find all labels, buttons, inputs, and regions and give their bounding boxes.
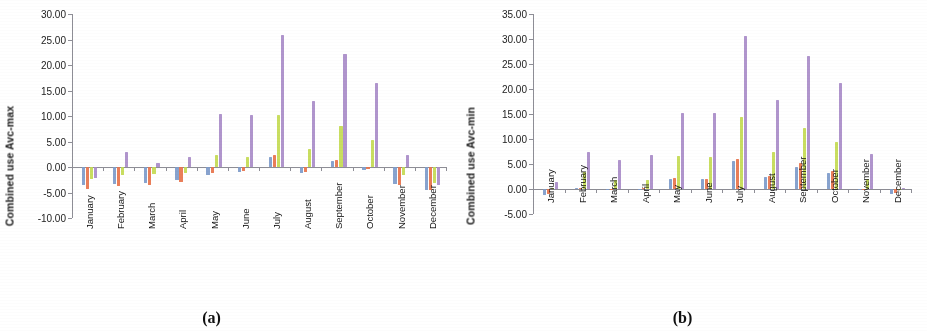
- figure-container: Combined use Avc-max 30.0025.0020.0015.0…: [0, 0, 927, 331]
- y-axis-tick-label: 30.00: [41, 9, 66, 20]
- bar-series-4: [125, 152, 128, 167]
- bar-series-3: [184, 167, 187, 173]
- plot-area-a: 30.0025.0020.0015.0010.005.000.00-5.00-1…: [72, 14, 446, 218]
- y-axis-tick: [68, 116, 72, 117]
- y-axis-tick-label: 25.00: [41, 34, 66, 45]
- bar-series-3: [371, 140, 374, 167]
- chart-panel-a: Combined use Avc-max 30.0025.0020.0015.0…: [0, 0, 463, 331]
- bar-group: [103, 14, 134, 218]
- y-axis-tick-label: 15.00: [41, 85, 66, 96]
- y-axis-tick: [529, 214, 533, 215]
- bar-series-1: [269, 157, 272, 167]
- bar-series-3: [152, 167, 155, 174]
- x-axis-label: April: [177, 210, 188, 229]
- y-axis-tick: [529, 14, 533, 15]
- bar-series-1: [238, 167, 241, 172]
- y-axis-tick: [529, 39, 533, 40]
- y-axis-tick: [68, 14, 72, 15]
- x-axis-label: June: [240, 208, 251, 229]
- x-axis-label: February: [115, 191, 126, 229]
- bar-group: [166, 14, 197, 218]
- bar-series-4: [406, 155, 409, 167]
- bar-series-2: [736, 159, 739, 189]
- x-axis-label: October: [829, 169, 840, 203]
- x-axis-label: November: [860, 159, 871, 203]
- bar-group: [722, 14, 754, 214]
- x-axis-tick: [134, 167, 135, 171]
- x-axis-label: May: [209, 211, 220, 229]
- x-axis-tick: [722, 189, 723, 193]
- x-axis-label: September: [797, 157, 808, 203]
- x-axis-tick: [596, 189, 597, 193]
- y-axis-title-a: Combined use Avc-max: [4, 78, 16, 253]
- bar-series-2: [211, 167, 214, 173]
- x-axis-label: August: [302, 199, 313, 229]
- bar-series-4: [250, 115, 253, 167]
- bar-series-3: [433, 167, 436, 183]
- bar-series-3: [308, 149, 311, 167]
- y-axis-tick-label: 10.00: [41, 111, 66, 122]
- bar-series-3: [740, 117, 743, 189]
- chart-panel-b: Combined use Avc-min 35.0030.0025.0020.0…: [463, 0, 926, 331]
- x-axis-tick: [166, 167, 167, 171]
- bar-series-4: [713, 113, 716, 189]
- plot-area-b: 35.0030.0025.0020.0015.0010.005.000.00-5…: [533, 14, 911, 214]
- bar-series-4: [681, 113, 684, 189]
- y-axis-tick: [68, 193, 72, 194]
- x-axis-label: February: [577, 165, 588, 203]
- bar-series-3: [339, 126, 342, 167]
- x-axis-label: March: [146, 203, 157, 229]
- bar-group: [353, 14, 384, 218]
- y-axis-tick-label: 10.00: [502, 134, 527, 145]
- x-axis-tick: [384, 167, 385, 171]
- x-axis-label: March: [608, 177, 619, 203]
- bar-group: [228, 14, 259, 218]
- bar-series-3: [246, 157, 249, 167]
- x-axis-label: August: [766, 173, 777, 203]
- bar-series-2: [398, 167, 401, 185]
- x-axis-label: December: [427, 185, 438, 229]
- bar-groups-b: [533, 14, 911, 214]
- x-axis-tick: [565, 189, 566, 193]
- x-axis-label: November: [396, 185, 407, 229]
- bar-series-2: [86, 167, 89, 189]
- x-axis-tick: [353, 167, 354, 171]
- y-axis-tick: [529, 89, 533, 90]
- bar-group: [659, 14, 691, 214]
- bar-series-1: [393, 167, 396, 184]
- bar-series-1: [732, 161, 735, 189]
- bar-series-4: [188, 157, 191, 167]
- x-axis-tick: [691, 189, 692, 193]
- x-axis-tick: [197, 167, 198, 171]
- y-axis-tick: [529, 139, 533, 140]
- y-axis-tick-label: 0.00: [47, 162, 66, 173]
- x-axis-label: June: [703, 182, 714, 203]
- x-axis-label: July: [271, 212, 282, 229]
- bar-series-4: [219, 114, 222, 167]
- bar-series-2: [242, 167, 245, 171]
- y-axis-tick-label: 25.00: [502, 59, 527, 70]
- y-axis-tick: [68, 65, 72, 66]
- x-axis-tick: [880, 189, 881, 193]
- y-axis-tick-label: -5.00: [43, 187, 66, 198]
- y-axis-tick-label: 0.00: [508, 184, 527, 195]
- bar-series-1: [331, 161, 334, 167]
- x-axis-label: January: [84, 195, 95, 229]
- y-axis-tick: [529, 64, 533, 65]
- bar-groups-a: [72, 14, 446, 218]
- bar-series-4: [744, 36, 747, 190]
- bar-series-3: [215, 155, 218, 167]
- bar-series-2: [335, 160, 338, 167]
- bar-series-4: [156, 163, 159, 167]
- y-axis-tick: [68, 40, 72, 41]
- bar-series-4: [437, 167, 440, 185]
- x-axis-tick: [659, 189, 660, 193]
- panel-caption-a: (a): [0, 309, 443, 327]
- bar-series-3: [90, 167, 93, 179]
- x-axis-tick: [754, 189, 755, 193]
- x-axis-label: January: [545, 169, 556, 203]
- x-axis-tick: [415, 167, 416, 171]
- y-axis-tick-label: 5.00: [508, 159, 527, 170]
- x-axis-tick: [911, 189, 912, 193]
- y-axis-tick-label: 15.00: [502, 109, 527, 120]
